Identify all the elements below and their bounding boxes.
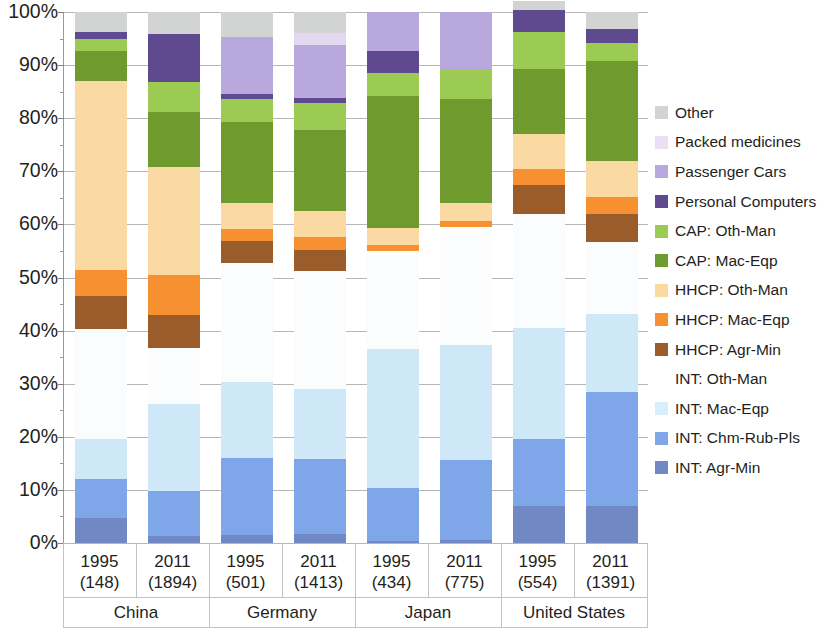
- stacked-bar[interactable]: [221, 12, 273, 543]
- legend-item[interactable]: HHCP: Oth-Man: [655, 276, 829, 306]
- legend-label: INT: Oth-Man: [675, 370, 767, 388]
- bar-segment: [221, 122, 273, 203]
- x-axis-separator: [282, 543, 283, 597]
- legend-label: INT: Agr-Min: [675, 459, 760, 477]
- y-axis-tick: [58, 384, 64, 385]
- legend-swatch-icon: [655, 461, 668, 474]
- legend-item[interactable]: CAP: Mac-Eqp: [655, 246, 829, 276]
- y-axis-labels: 100%90%80%70%60%50%40%30%20%10%0%: [0, 0, 58, 543]
- bar-segment: [440, 227, 492, 345]
- y-axis-tick-label: 50%: [19, 268, 58, 288]
- x-tick-year: 1995: [502, 551, 574, 572]
- y-axis-tick-label: 100%: [8, 2, 58, 22]
- legend-swatch-icon: [655, 225, 668, 238]
- bar-segment: [586, 506, 638, 543]
- x-axis-separator: [574, 543, 575, 597]
- y-axis-tick-label: 60%: [19, 215, 58, 235]
- bar-segment: [294, 45, 346, 98]
- bar-segment: [367, 73, 419, 97]
- x-tick-value: (148): [64, 572, 136, 593]
- legend-item[interactable]: INT: Agr-Min: [655, 453, 829, 483]
- x-tick-year: 1995: [210, 551, 282, 572]
- bar-segment: [513, 1, 565, 9]
- legend-item[interactable]: Personal Computers: [655, 187, 829, 217]
- stacked-bar[interactable]: [513, 12, 565, 543]
- bar-segment: [221, 263, 273, 382]
- legend-item[interactable]: INT: Oth-Man: [655, 364, 829, 394]
- x-tick-value: (554): [502, 572, 574, 593]
- x-axis-separator: [136, 543, 137, 597]
- bar-segment: [513, 169, 565, 184]
- y-axis-minor-tick: [60, 357, 64, 358]
- chart-legend: OtherPacked medicinesPassenger CarsPerso…: [655, 98, 829, 483]
- legend-item[interactable]: INT: Chm-Rub-Pls: [655, 424, 829, 454]
- bar-segment: [513, 439, 565, 506]
- bar-segment: [440, 203, 492, 221]
- bar-segment: [440, 221, 492, 227]
- x-tick-year: 1995: [64, 551, 136, 572]
- x-tick-value: (501): [210, 572, 282, 593]
- bar-segment: [513, 185, 565, 215]
- x-tick-year: 2011: [575, 551, 647, 572]
- bar-segment: [75, 329, 127, 439]
- bar-segment: [294, 103, 346, 130]
- bar-segment: [513, 134, 565, 169]
- bar-segment: [221, 12, 273, 37]
- legend-item[interactable]: Other: [655, 98, 829, 128]
- legend-item[interactable]: Passenger Cars: [655, 157, 829, 187]
- bar-segment: [586, 161, 638, 197]
- legend-item[interactable]: CAP: Oth-Man: [655, 216, 829, 246]
- bar-segment: [586, 197, 638, 214]
- bar-segment: [294, 534, 346, 543]
- bar-segment: [221, 99, 273, 122]
- legend-swatch-icon: [655, 313, 668, 326]
- stacked-bar[interactable]: [75, 12, 127, 543]
- y-axis-minor-tick: [60, 39, 64, 40]
- legend-swatch-icon: [655, 136, 668, 149]
- legend-item[interactable]: HHCP: Agr-Min: [655, 335, 829, 365]
- stacked-bar[interactable]: [367, 12, 419, 543]
- bar-segment: [75, 439, 127, 479]
- y-axis-tick-label: 20%: [19, 427, 58, 447]
- y-axis-tick: [58, 118, 64, 119]
- y-axis-tick-label: 40%: [19, 321, 58, 341]
- bar-segment: [75, 296, 127, 329]
- x-tick-year: 2011: [283, 551, 355, 572]
- stacked-bar[interactable]: [148, 12, 200, 543]
- stacked-bar[interactable]: [294, 12, 346, 543]
- bar-segment: [513, 328, 565, 440]
- legend-label: Passenger Cars: [675, 163, 786, 181]
- bar-segment: [586, 214, 638, 242]
- legend-swatch-icon: [655, 432, 668, 445]
- legend-item[interactable]: HHCP: Mac-Eqp: [655, 305, 829, 335]
- x-tick-value: (1391): [575, 572, 647, 593]
- bar-segment: [586, 12, 638, 29]
- country-group-label: Germany: [209, 603, 355, 623]
- bar-segment: [221, 458, 273, 536]
- plot-area: [63, 12, 647, 543]
- bar-segment: [294, 271, 346, 389]
- legend-item[interactable]: Packed medicines: [655, 128, 829, 158]
- y-axis-minor-tick: [60, 463, 64, 464]
- y-axis-tick: [58, 490, 64, 491]
- legend-label: Packed medicines: [675, 133, 801, 151]
- bar-segment: [75, 518, 127, 543]
- x-tick-value: (775): [429, 572, 501, 593]
- bar-segment: [221, 229, 273, 241]
- bar-segment: [586, 242, 638, 314]
- legend-item[interactable]: INT: Mac-Eqp: [655, 394, 829, 424]
- bar-segment: [148, 112, 200, 167]
- bar-segment: [294, 130, 346, 211]
- y-axis-minor-tick: [60, 251, 64, 252]
- legend-label: CAP: Oth-Man: [675, 222, 776, 240]
- country-group-label: China: [63, 603, 209, 623]
- x-axis-separator: [428, 543, 429, 597]
- stacked-bar[interactable]: [440, 12, 492, 543]
- legend-swatch-icon: [655, 343, 668, 356]
- stacked-bar[interactable]: [586, 12, 638, 543]
- bar-segment: [367, 245, 419, 251]
- y-axis-minor-tick: [60, 145, 64, 146]
- bar-segment: [367, 488, 419, 541]
- x-tick-value: (434): [356, 572, 428, 593]
- y-axis-tick: [58, 171, 64, 172]
